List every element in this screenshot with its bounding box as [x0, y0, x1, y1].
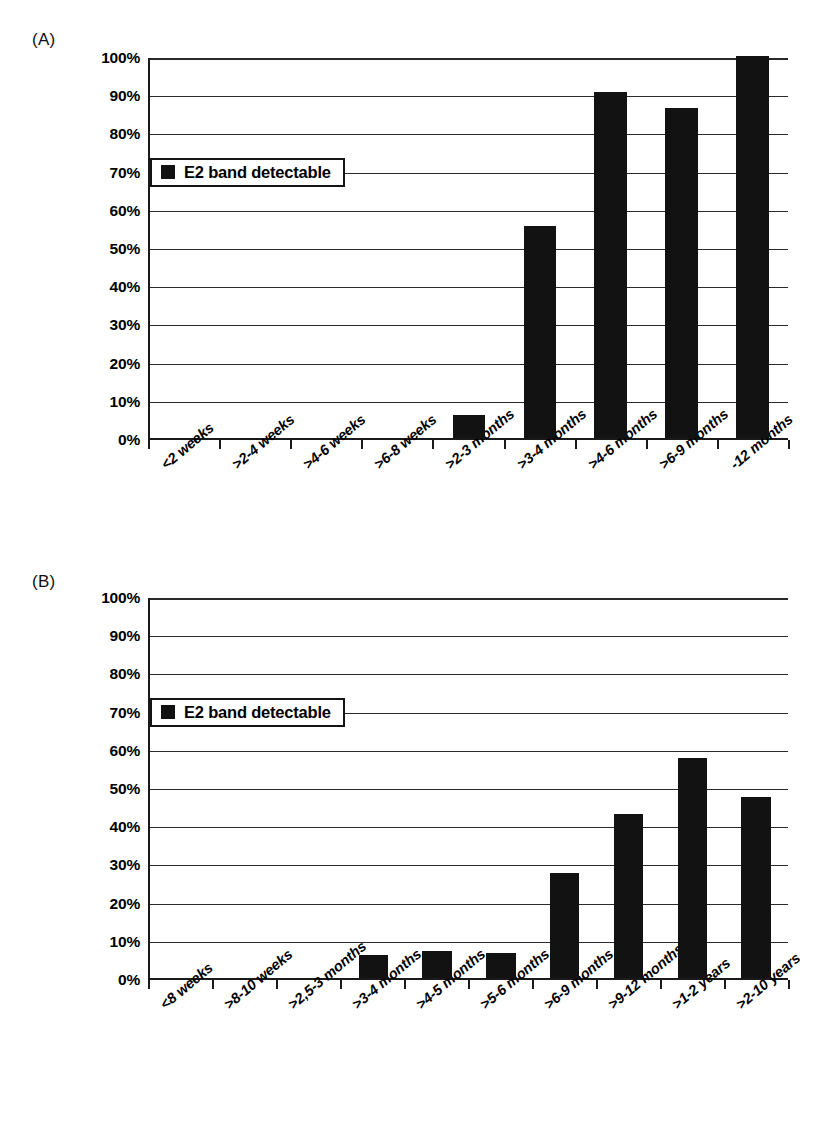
bar-slot	[597, 598, 661, 978]
legend-label: E2 band detectable	[184, 164, 331, 181]
legend-swatch-icon	[161, 705, 175, 719]
bar	[550, 873, 579, 978]
bar	[678, 758, 707, 978]
bar-slot	[575, 58, 646, 438]
bar-slot	[717, 58, 788, 438]
x-tick	[468, 980, 470, 989]
y-tick-label: 70%	[82, 165, 140, 181]
y-axis-labels-a: 0%10%20%30%40%50%60%70%80%90%100%	[82, 0, 140, 570]
panel-a: (A) 0%10%20%30%40%50%60%70%80%90%100% <2…	[0, 0, 829, 570]
bar-slot	[278, 598, 342, 978]
y-tick-label: 70%	[82, 705, 140, 721]
y-tick-label: 60%	[82, 743, 140, 759]
y-tick-label: 80%	[82, 127, 140, 143]
x-tick	[148, 980, 150, 989]
bar-slot	[469, 598, 533, 978]
legend-a: E2 band detectable	[150, 158, 345, 188]
bar	[453, 415, 486, 438]
chart-a: 0%10%20%30%40%50%60%70%80%90%100% <2 wee…	[0, 0, 829, 570]
bar-slot	[434, 58, 505, 438]
x-tick	[290, 440, 292, 449]
y-tick-label: 20%	[82, 356, 140, 372]
bar-slot	[341, 598, 405, 978]
x-tick	[788, 440, 790, 449]
y-tick-label: 60%	[82, 203, 140, 219]
x-tick	[432, 440, 434, 449]
y-tick-label: 40%	[82, 819, 140, 835]
bar	[422, 951, 451, 978]
y-tick-label: 20%	[82, 896, 140, 912]
bar	[736, 56, 769, 438]
y-tick-label: 10%	[82, 934, 140, 950]
x-tick	[596, 980, 598, 989]
y-tick-label: 30%	[82, 858, 140, 874]
bar-slot	[150, 598, 214, 978]
bars-b	[150, 598, 788, 978]
x-tick	[660, 980, 662, 989]
bar-slot	[363, 58, 434, 438]
y-tick-label: 90%	[82, 628, 140, 644]
legend-b: E2 band detectable	[150, 698, 345, 728]
x-tick	[404, 980, 406, 989]
y-tick-label: 100%	[82, 590, 140, 606]
y-tick-label: 100%	[82, 50, 140, 66]
y-tick-label: 40%	[82, 279, 140, 295]
x-tick	[717, 440, 719, 449]
y-tick-label: 30%	[82, 318, 140, 334]
bar-slot	[405, 598, 469, 978]
x-tick	[219, 440, 221, 449]
bar	[594, 92, 627, 438]
bar-slot	[292, 58, 363, 438]
x-tick	[575, 440, 577, 449]
x-tick	[504, 440, 506, 449]
chart-b: 0%10%20%30%40%50%60%70%80%90%100% <8 wee…	[0, 570, 829, 1141]
y-tick-label: 80%	[82, 667, 140, 683]
y-tick-label: 0%	[82, 972, 140, 988]
y-tick-label: 10%	[82, 394, 140, 410]
bars-a	[150, 58, 788, 438]
x-tick	[340, 980, 342, 989]
bar	[359, 955, 388, 978]
y-tick-label: 50%	[82, 241, 140, 257]
bar-slot	[533, 598, 597, 978]
y-tick-label: 50%	[82, 781, 140, 797]
x-tick	[361, 440, 363, 449]
x-tick	[646, 440, 648, 449]
bar-slot	[724, 598, 788, 978]
plot-area-b	[148, 598, 788, 980]
x-tick	[724, 980, 726, 989]
x-tick	[276, 980, 278, 989]
bar	[614, 814, 643, 978]
legend-swatch-icon	[161, 165, 175, 179]
legend-label: E2 band detectable	[184, 704, 331, 721]
panel-b: (B) 0%10%20%30%40%50%60%70%80%90%100% <8…	[0, 570, 829, 1141]
y-tick-label: 0%	[82, 432, 140, 448]
bar-slot	[214, 598, 278, 978]
bar	[524, 226, 557, 438]
x-tick	[532, 980, 534, 989]
plot-area-a	[148, 58, 788, 440]
y-tick-label: 90%	[82, 88, 140, 104]
y-axis-labels-b: 0%10%20%30%40%50%60%70%80%90%100%	[82, 570, 140, 1141]
x-tick	[212, 980, 214, 989]
x-tick	[148, 440, 150, 449]
bar	[486, 953, 515, 978]
bar	[741, 797, 770, 978]
bar-slot	[150, 58, 221, 438]
bar	[665, 108, 698, 438]
x-tick	[788, 980, 790, 989]
bar-slot	[660, 598, 724, 978]
bar-slot	[504, 58, 575, 438]
bar-slot	[221, 58, 292, 438]
bar-slot	[646, 58, 717, 438]
